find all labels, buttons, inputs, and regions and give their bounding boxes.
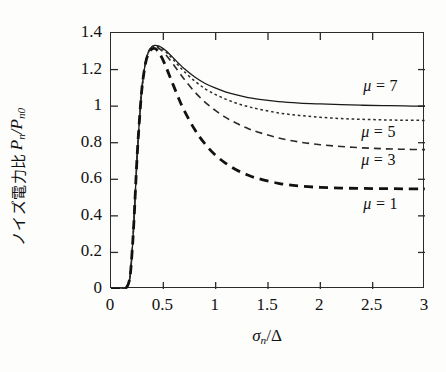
series-label-mu-3: μ = 3: [361, 151, 396, 169]
y-axis-label: ノイズ電力比Pn/Pn0: [0, 49, 34, 305]
x-axis-delta-symbol: Δ: [271, 326, 282, 345]
x-axis-sigma-symbol: σ: [252, 326, 260, 345]
series-label-mu-symbol: μ: [361, 123, 369, 140]
y-axis-p-symbol: P: [7, 140, 26, 150]
y-axis-label-math: Pn/Pn0: [7, 108, 27, 150]
y-tick-label: 0.6: [58, 169, 102, 186]
series-label-value: 1: [390, 195, 398, 212]
x-tick-label: 0: [87, 296, 133, 313]
series-label-mu-symbol: μ: [363, 77, 371, 94]
y-tick-label: 0: [58, 279, 102, 296]
y-tick-label: 0.8: [58, 133, 102, 150]
y-axis-p-subscript: n: [15, 134, 27, 140]
y-axis-slash: /: [7, 129, 26, 134]
y-tick-label: 0.4: [58, 206, 102, 223]
y-tick-label: 1.4: [58, 23, 102, 40]
x-tick-label: 0.5: [139, 296, 185, 313]
series-label-equals: =: [372, 195, 390, 212]
y-axis-p0-symbol: P: [7, 119, 26, 129]
series-label-mu-symbol: μ: [363, 195, 371, 212]
series-label-equals: =: [370, 123, 388, 140]
y-tick-label: 1: [58, 96, 102, 113]
x-tick-label: 1.5: [244, 296, 290, 313]
y-tick-label: 1.2: [58, 60, 102, 77]
series-label-mu-5: μ = 5: [361, 123, 396, 141]
y-tick-label: 0.2: [58, 242, 102, 259]
series-label-equals: =: [370, 151, 388, 168]
y-axis-label-japanese: ノイズ電力比: [7, 153, 28, 246]
x-tick-label: 3: [401, 296, 446, 313]
series-label-mu-7: μ = 7: [363, 77, 398, 95]
x-tick-label: 2.5: [349, 296, 395, 313]
x-axis-label: σn/Δ: [110, 326, 424, 346]
figure-container: ノイズ電力比Pn/Pn0 σn/Δ 00.20.40.60.811.21.400…: [0, 0, 446, 372]
series-label-value: 7: [390, 77, 398, 94]
y-axis-p0-subscript: n0: [15, 108, 27, 119]
series-label-value: 3: [387, 151, 395, 168]
series-label-equals: =: [372, 77, 390, 94]
series-label-mu-1: μ = 1: [363, 195, 398, 213]
series-label-mu-symbol: μ: [361, 151, 369, 168]
series-label-value: 5: [387, 123, 395, 140]
x-tick-label: 2: [296, 296, 342, 313]
x-tick-label: 1: [192, 296, 238, 313]
